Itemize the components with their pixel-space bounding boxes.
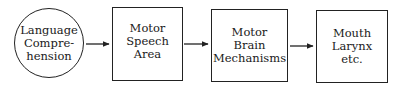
edge-arrows [0, 0, 402, 88]
